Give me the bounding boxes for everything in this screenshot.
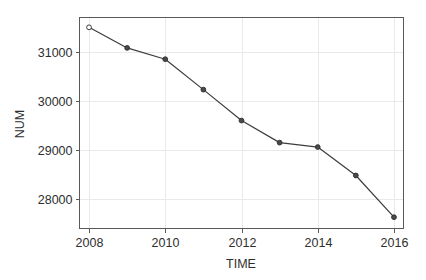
data-point <box>239 118 244 123</box>
x-tick-label: 2008 <box>76 236 104 250</box>
y-tick-label: 28000 <box>38 193 73 207</box>
data-point <box>315 145 320 150</box>
x-tick-label: 2016 <box>381 236 409 250</box>
data-point <box>163 57 168 62</box>
y-tick-label: 31000 <box>38 46 73 60</box>
data-point <box>87 25 92 30</box>
data-point <box>353 173 358 178</box>
data-point <box>125 46 130 51</box>
x-axis-title: TIME <box>226 257 256 271</box>
chart-container: 28000290003000031000 2008201020122014201… <box>0 0 426 280</box>
data-point <box>201 87 206 92</box>
line-chart: 28000290003000031000 2008201020122014201… <box>0 0 426 280</box>
y-tick-label: 29000 <box>38 144 73 158</box>
y-tick-label: 30000 <box>38 95 73 109</box>
chart-background <box>0 0 426 280</box>
data-point <box>277 140 282 145</box>
x-tick-label: 2014 <box>305 236 333 250</box>
y-axis-title: NUM <box>13 110 27 138</box>
data-point <box>392 215 397 220</box>
x-tick-label: 2012 <box>229 236 257 250</box>
x-tick-label: 2010 <box>152 236 180 250</box>
